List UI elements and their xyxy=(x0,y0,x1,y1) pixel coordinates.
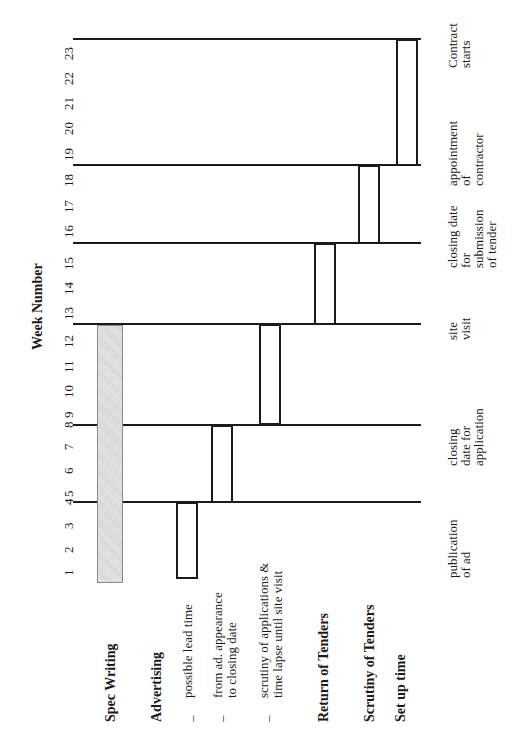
milestone-contract-starts: Contract starts xyxy=(446,23,472,68)
label-possible-lead-time: possible lead time xyxy=(181,604,195,698)
tick-19: 19 xyxy=(62,148,75,161)
dash-scrutiny-app: – xyxy=(261,716,275,723)
tick-17: 17 xyxy=(62,200,75,213)
tick-2: 2 xyxy=(62,547,75,554)
milestone-appointment-contractor: appointment of contractor xyxy=(446,121,485,186)
milestone-publication-of-ad: publication of ad xyxy=(446,520,472,579)
tick-13: 13 xyxy=(62,307,75,320)
tick-21: 21 xyxy=(62,97,75,110)
tick-3: 3 xyxy=(62,523,75,530)
bar-scrutiny-of-tenders xyxy=(358,165,380,244)
bar-return-of-tenders xyxy=(314,243,336,325)
tick-20: 20 xyxy=(62,122,75,135)
label-ad-to-close-line1: from ad. appearance xyxy=(211,592,225,698)
tick-23: 23 xyxy=(62,47,75,60)
milestone-closing-date-application: closing date for application xyxy=(446,408,485,466)
milestone-line-publication xyxy=(73,501,421,503)
label-scrutiny-app-line1: scrutiny of applications & xyxy=(257,563,271,698)
dash-lead-time: – xyxy=(185,716,199,723)
label-scrutiny-app-line2: time lapse until site visit xyxy=(271,571,285,698)
bar-set-up-time xyxy=(396,39,418,166)
tick-1: 1 xyxy=(62,570,75,577)
milestone-line-site-visit xyxy=(73,323,421,325)
label-set-up-time: Set up time xyxy=(394,654,408,722)
tick-12: 12 xyxy=(62,335,75,348)
bar-spec-writing xyxy=(97,325,123,583)
label-ad-to-close-line2: to closing date xyxy=(225,622,239,698)
tick-11: 11 xyxy=(62,360,75,373)
milestone-line-contract-starts xyxy=(73,38,421,40)
axis-title: Week Number xyxy=(30,263,46,350)
milestone-line-closing-application xyxy=(73,424,421,426)
dash-ad-to-close: – xyxy=(215,716,229,723)
label-scrutiny-of-tenders: Scrutiny of Tenders xyxy=(363,605,377,722)
label-spec-writing: Spec Writing xyxy=(104,644,118,722)
bar-ad-to-closing xyxy=(211,425,233,503)
tick-7: 7 xyxy=(62,444,75,451)
tick-15: 15 xyxy=(62,257,75,270)
tick-9: 9 xyxy=(62,412,75,419)
tick-18: 18 xyxy=(62,174,75,187)
milestone-closing-date-tender: closing date for submission of tender xyxy=(446,206,498,268)
label-advertising: Advertising xyxy=(150,652,164,722)
tick-10: 10 xyxy=(62,385,75,398)
tick-14: 14 xyxy=(62,282,75,295)
tick-6: 6 xyxy=(62,468,75,475)
label-return-of-tenders: Return of Tenders xyxy=(317,613,331,722)
tick-16: 16 xyxy=(62,225,75,238)
bar-scrutiny-applications xyxy=(259,324,281,425)
bar-possible-lead-time xyxy=(176,502,198,579)
tick-22: 22 xyxy=(62,72,75,85)
milestone-site-visit: site visit xyxy=(446,318,472,340)
tick-5: 5 xyxy=(62,491,75,498)
